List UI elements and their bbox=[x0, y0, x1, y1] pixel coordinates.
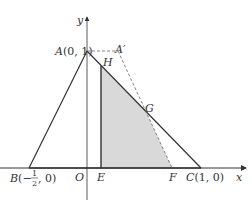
point-a-prime-label: A′ bbox=[114, 43, 126, 56]
segment-ab bbox=[29, 51, 87, 168]
origin-label: O bbox=[75, 171, 84, 184]
point-c-label: C(1, 0) bbox=[186, 171, 224, 184]
point-b-label: B(− 1 2 , 0) bbox=[9, 169, 56, 188]
point-a-label: A(0, 1) bbox=[54, 45, 93, 58]
b-coords-suffix: , 0) bbox=[38, 172, 56, 185]
x-axis-label: x bbox=[236, 171, 243, 184]
fraction-denominator: 2 bbox=[32, 179, 37, 188]
point-g-label: G bbox=[145, 102, 154, 115]
geometry-diagram: y x O A(0, 1) A′ H G E F C(1, 0) B(− 1 2… bbox=[0, 0, 252, 202]
shaded-region-ehgf bbox=[101, 66, 172, 168]
point-f-label: F bbox=[168, 171, 177, 184]
svg-text:B(−: B(− bbox=[9, 172, 32, 185]
point-e-label: E bbox=[96, 171, 105, 184]
fraction-numerator: 1 bbox=[32, 169, 37, 178]
y-axis-label: y bbox=[76, 14, 84, 27]
point-h-label: H bbox=[102, 56, 113, 69]
